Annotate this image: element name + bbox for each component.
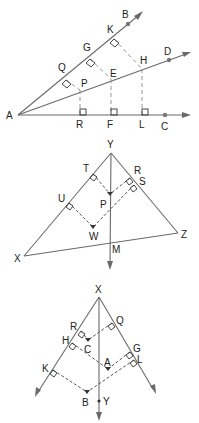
- point-B: [84, 390, 90, 394]
- label-S: S: [139, 176, 146, 187]
- label-K: K: [42, 363, 49, 374]
- label-A: A: [104, 357, 111, 368]
- label-R: R: [70, 321, 77, 332]
- point-P: [107, 192, 113, 196]
- right-angle-G-icon: [86, 59, 95, 67]
- figure-angle-bisector-converse: X R Q H C G A L K B Y: [35, 284, 156, 421]
- label-D: D: [164, 46, 171, 57]
- side-YZ: [111, 153, 178, 233]
- point-Y: [97, 399, 100, 402]
- right-angle-L-icon: [130, 360, 137, 367]
- point-C: [85, 338, 91, 342]
- label-R: R: [134, 165, 141, 176]
- label-K: K: [107, 24, 114, 35]
- label-C: C: [84, 344, 91, 355]
- label-F: F: [107, 119, 113, 130]
- label-R: R: [76, 119, 83, 130]
- right-angle-L-icon: [142, 109, 148, 115]
- label-B: B: [82, 397, 89, 408]
- point-B: [126, 22, 130, 26]
- label-Q: Q: [116, 315, 124, 326]
- ray-right: [99, 297, 153, 389]
- arrow-C-icon: [182, 112, 191, 118]
- label-W: W: [89, 231, 99, 242]
- figure-triangle-bisector: Y T R S U P W X Z M: [14, 139, 187, 270]
- label-G: G: [83, 42, 91, 53]
- label-X: X: [14, 253, 21, 264]
- arrow-down-icon: [96, 412, 102, 421]
- arrow-bisector-icon: [107, 261, 113, 270]
- right-angle-K-icon: [110, 39, 119, 47]
- label-Q: Q: [58, 62, 66, 73]
- label-G: G: [133, 343, 141, 354]
- label-E: E: [110, 68, 117, 79]
- right-angle-R-icon: [126, 178, 133, 185]
- ray-AB: [18, 15, 139, 115]
- perp-BK: [53, 370, 87, 392]
- arrow-D-icon: [182, 52, 191, 57]
- label-C: C: [161, 121, 168, 132]
- label-B: B: [122, 9, 129, 20]
- label-P: P: [81, 78, 88, 89]
- right-angle-R-icon: [80, 109, 86, 115]
- label-H: H: [62, 335, 69, 346]
- label-Z: Z: [181, 229, 187, 240]
- geometry-figures: A B K G Q D H E P R F L C Y: [0, 0, 199, 423]
- point-C: [163, 113, 167, 117]
- label-U: U: [58, 193, 65, 204]
- point-D: [167, 58, 171, 62]
- ray-AD: [18, 54, 186, 115]
- label-L: L: [137, 354, 143, 365]
- label-P: P: [100, 199, 107, 210]
- label-H: H: [140, 55, 147, 66]
- label-X: X: [95, 284, 102, 295]
- right-angle-Q-icon: [62, 80, 71, 88]
- figure-angle-bisector: A B K G Q D H E P R F L C: [6, 9, 191, 132]
- side-XZ: [24, 233, 178, 256]
- right-angle-H-icon: [69, 343, 76, 350]
- right-angle-F-icon: [111, 109, 117, 115]
- label-L: L: [139, 119, 145, 130]
- label-Y: Y: [103, 396, 110, 407]
- label-M: M: [112, 244, 120, 255]
- perp-PT: [93, 174, 110, 194]
- point-W: [90, 225, 96, 229]
- label-Y: Y: [107, 139, 114, 150]
- right-angle-Q-icon: [108, 323, 115, 330]
- label-T: T: [83, 163, 89, 174]
- label-A: A: [6, 110, 13, 121]
